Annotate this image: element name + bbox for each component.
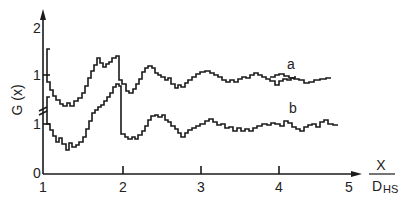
x-label-3: 3 — [197, 179, 205, 195]
x-label-4: 4 — [275, 179, 283, 195]
y-axis-title: G (x) — [9, 84, 25, 115]
x-axis-title-subscript: HS — [383, 183, 398, 195]
y-label-2: 2 — [33, 20, 41, 36]
curve-a — [47, 49, 295, 106]
x-axis-title-numerator: X — [376, 157, 386, 173]
y-label-upper-1: 1 — [33, 67, 41, 83]
x-axis-title-denominator: D — [372, 178, 382, 194]
x-label-1: 1 — [39, 179, 47, 195]
chart: 2 1 1 0 1 2 3 4 5 G (x) X D HS a b — [0, 0, 414, 201]
series-label-a: a — [287, 56, 295, 72]
x-axis-arrow-icon — [351, 171, 362, 177]
x-label-5: 5 — [345, 179, 353, 195]
curve-b — [47, 84, 338, 150]
series-label-b: b — [289, 100, 297, 116]
x-label-2: 2 — [119, 179, 127, 195]
y-label-lower-1: 1 — [33, 116, 41, 132]
y-axis-arrow-icon — [40, 9, 46, 20]
